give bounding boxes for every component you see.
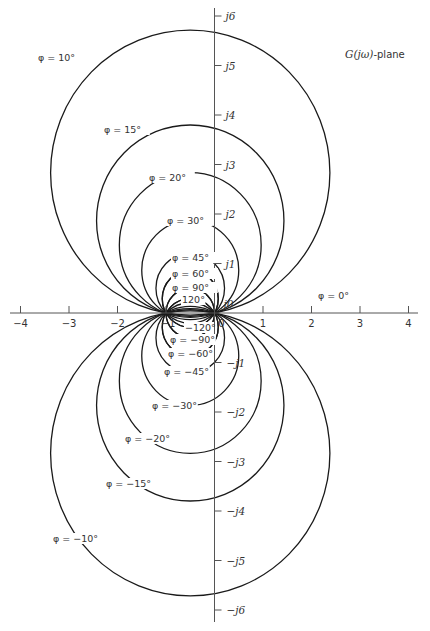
phase-label: φ = 0° xyxy=(318,290,349,301)
phase-label: 120° xyxy=(182,294,205,305)
y-tick-label: j4 xyxy=(224,109,236,121)
y-tick-label: −j4 xyxy=(227,505,246,517)
y-tick-label: −j5 xyxy=(227,555,246,567)
x-tick-label: 1 xyxy=(260,318,266,329)
phase-label: φ = −30° xyxy=(152,400,197,411)
x-tick-label-zero: 0 xyxy=(218,318,224,329)
g-plane-diagram: −4−3−21234 j6j5j4j3j2j1−j1−j2−j3−j4−j5−j… xyxy=(0,0,430,631)
y-tick-label: j2 xyxy=(224,208,236,220)
x-tick-label: −4 xyxy=(13,318,28,329)
y-tick-label: −j2 xyxy=(227,406,246,418)
phase-label: φ = 60° xyxy=(172,268,209,279)
x-tick-label: −3 xyxy=(62,318,77,329)
phase-label: −120° xyxy=(185,322,216,333)
phase-label: φ = 15° xyxy=(104,124,141,135)
x-tick-label: −2 xyxy=(110,318,125,329)
phase-label: φ = 10° xyxy=(38,52,75,63)
phase-label: φ = 20° xyxy=(149,172,186,183)
phase-label: φ = −45° xyxy=(164,366,209,377)
y-tick-label: j5 xyxy=(224,60,236,72)
phase-label: φ = −60° xyxy=(168,348,213,359)
plane-title: G(jω)-plane xyxy=(345,48,405,60)
y-tick-label: j1 xyxy=(224,258,236,270)
phase-label: φ = −10° xyxy=(53,533,98,544)
axes xyxy=(10,8,418,622)
phase-label: φ = 30° xyxy=(167,215,204,226)
phase-label: φ = 45° xyxy=(172,252,209,263)
x-tick-label: 4 xyxy=(405,318,411,329)
phase-label: φ = 90° xyxy=(172,282,209,293)
y-tick-label: −j6 xyxy=(227,604,246,616)
phase-label: φ = −15° xyxy=(106,478,151,489)
x-tick-label: 2 xyxy=(308,318,314,329)
phase-label: φ = −20° xyxy=(125,433,170,444)
j0-label: j0 xyxy=(222,298,234,310)
y-tick-label: j6 xyxy=(224,10,236,22)
y-tick-label: −j1 xyxy=(227,357,246,369)
y-tick-label: −j3 xyxy=(227,456,246,468)
x-tick-label: 3 xyxy=(357,318,363,329)
y-tick-label: j3 xyxy=(224,159,236,171)
x-tick-label-minus-one: −1 xyxy=(161,318,176,329)
phase-label: φ = −90° xyxy=(170,334,215,345)
